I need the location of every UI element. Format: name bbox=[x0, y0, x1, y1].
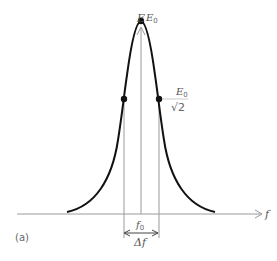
half-power-numerator: E0 bbox=[175, 86, 188, 99]
f-axis bbox=[17, 210, 262, 218]
resonance-curve-diagram: E f E0 E0 √2 f0 Δf (a) bbox=[0, 0, 277, 261]
f-axis-label: f bbox=[264, 208, 271, 221]
center-frequency-label: f0 bbox=[135, 219, 144, 232]
panel-label: (a) bbox=[15, 232, 29, 243]
half-power-denominator: √2 bbox=[171, 101, 185, 114]
bandwidth-label: Δf bbox=[133, 236, 148, 249]
lower-half-power-point bbox=[121, 96, 127, 102]
e-axis-label: E bbox=[136, 12, 145, 25]
upper-half-power-point bbox=[156, 96, 162, 102]
e-axis bbox=[137, 27, 145, 214]
peak-label: E0 bbox=[145, 12, 158, 25]
